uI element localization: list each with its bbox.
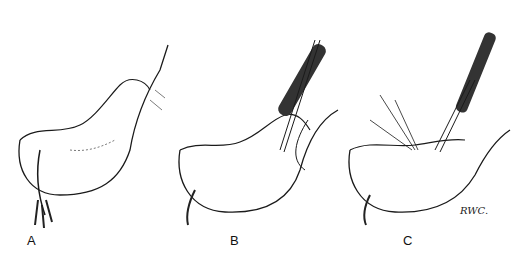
panel-label-b: B [230, 233, 239, 248]
stomach-illustration-b [170, 0, 340, 255]
panel-label-a: A [27, 233, 36, 248]
artist-signature: RWC. [460, 205, 488, 216]
panel-c: C RWC. [340, 0, 512, 255]
instrument-handle [454, 31, 497, 114]
panel-b: B [170, 0, 340, 255]
panel-a: A [0, 0, 170, 255]
stomach-illustration-c [340, 0, 512, 255]
stomach-illustration-a [0, 0, 170, 255]
panel-label-c: C [403, 233, 412, 248]
